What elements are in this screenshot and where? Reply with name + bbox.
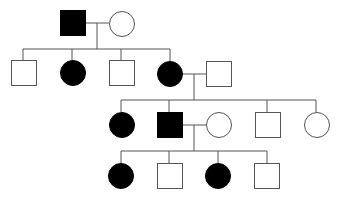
mating-I (23, 23, 170, 61)
affected-female-circle-icon (109, 164, 134, 189)
unaffected-female-circle-icon (110, 12, 135, 37)
unaffected-male-square-icon (158, 164, 183, 189)
unaffected-male-square-icon (12, 61, 37, 86)
affected-female-circle-icon (61, 61, 86, 86)
unaffected-male-square-icon (207, 62, 232, 87)
affected-female-circle-icon (158, 62, 183, 87)
unaffected-female-circle-icon (207, 113, 232, 138)
unaffected-male-square-icon (255, 164, 280, 189)
unaffected-male-square-icon (256, 113, 281, 138)
mating-III (121, 125, 267, 163)
affected-male-square-icon (61, 11, 86, 36)
affected-female-circle-icon (206, 164, 231, 189)
unaffected-male-square-icon (110, 61, 135, 86)
unaffected-female-circle-icon (305, 113, 330, 138)
pedigree-chart (0, 0, 337, 201)
affected-male-square-icon (158, 113, 183, 138)
affected-female-circle-icon (110, 113, 135, 138)
